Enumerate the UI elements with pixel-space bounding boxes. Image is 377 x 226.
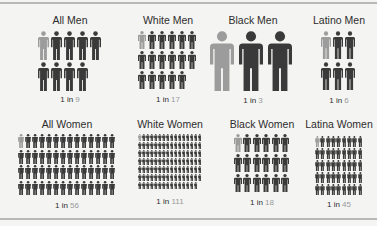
person-icon <box>194 182 198 189</box>
person-icon <box>32 134 38 148</box>
person-icon <box>253 174 261 192</box>
person-icon <box>60 165 66 179</box>
person-icon <box>81 165 87 179</box>
person-icon <box>345 62 355 90</box>
person-icon <box>243 154 251 172</box>
person-icon <box>18 150 24 164</box>
panel-title: White Men <box>128 14 208 26</box>
person-icon <box>74 181 80 195</box>
person-icon <box>18 181 24 195</box>
person-icon <box>188 31 196 49</box>
person-icon <box>336 172 341 183</box>
person-icon <box>138 71 146 89</box>
person-icon <box>326 172 331 183</box>
person-icon <box>102 181 108 195</box>
person-icon <box>342 136 347 147</box>
person-icon <box>320 148 325 159</box>
person-icon <box>358 148 363 159</box>
person-icon <box>168 31 176 49</box>
person-icon <box>198 150 202 157</box>
person-icon <box>331 184 336 195</box>
person-icon <box>178 31 186 49</box>
person-icon <box>46 150 52 164</box>
odds-label: 1 in 6 <box>306 96 372 105</box>
person-icon <box>333 31 343 59</box>
panel-title: Latina Women <box>302 118 376 130</box>
person-icon <box>138 51 146 69</box>
panel-title: All Men <box>20 14 120 26</box>
person-icon <box>53 134 59 148</box>
person-icon <box>336 148 341 159</box>
person-icon <box>39 165 45 179</box>
person-icon <box>239 31 263 91</box>
person-icon <box>253 134 261 152</box>
person-icon <box>148 51 156 69</box>
person-icon <box>74 134 80 148</box>
person-icon <box>25 165 31 179</box>
person-icon <box>51 31 62 60</box>
panel-latino-men: Latino Men 1 in 6 <box>306 14 372 105</box>
person-icon-grid <box>38 31 103 91</box>
person-icon <box>352 172 357 183</box>
person-icon <box>95 150 101 164</box>
person-icon-highlighted <box>138 31 146 49</box>
panel-all-men: All Men 1 in 9 <box>20 14 120 104</box>
person-icon <box>77 31 88 60</box>
person-icon <box>272 154 280 172</box>
bottom-divider <box>0 218 377 220</box>
person-icon <box>326 160 331 171</box>
person-icon <box>281 134 289 152</box>
person-icon <box>158 31 166 49</box>
person-icon-highlighted <box>315 136 320 147</box>
person-icon <box>188 51 196 69</box>
panel-title: White Women <box>130 118 210 130</box>
person-icon <box>168 71 176 89</box>
person-icon <box>46 134 52 148</box>
person-icon <box>198 174 202 181</box>
person-icon <box>331 160 336 171</box>
person-icon <box>60 150 66 164</box>
person-icon <box>352 136 357 147</box>
person-icon <box>342 184 347 195</box>
person-icon <box>198 158 202 165</box>
person-icon <box>234 154 242 172</box>
person-icon <box>198 142 202 149</box>
person-icon <box>25 134 31 148</box>
person-icon <box>320 136 325 147</box>
person-icon <box>109 181 115 195</box>
person-icon <box>352 160 357 171</box>
panel-title: Black Men <box>208 14 298 26</box>
person-icon <box>281 174 289 192</box>
person-icon <box>67 134 73 148</box>
panel-all-women: All Women 1 in 56 <box>14 118 120 210</box>
person-icon <box>198 134 202 141</box>
panel-black-men: Black Men 1 in 3 <box>208 14 298 105</box>
person-icon <box>102 165 108 179</box>
person-icon <box>74 150 80 164</box>
person-icon <box>272 134 280 152</box>
person-icon <box>74 165 80 179</box>
odds-label: 1 in 18 <box>224 198 300 207</box>
person-icon <box>345 31 355 59</box>
person-icon <box>320 172 325 183</box>
person-icon <box>320 160 325 171</box>
person-icon <box>347 172 352 183</box>
person-icon <box>53 181 59 195</box>
person-icon-highlighted <box>234 134 242 152</box>
person-icon-grid <box>210 31 297 91</box>
person-icon <box>102 134 108 148</box>
odds-label: 1 in 56 <box>14 201 120 210</box>
person-icon <box>178 71 186 89</box>
person-icon <box>95 165 101 179</box>
person-icon <box>243 134 251 152</box>
person-icon <box>32 181 38 195</box>
person-icon-highlighted <box>321 31 331 59</box>
person-icon <box>336 136 341 147</box>
person-icon <box>358 160 363 171</box>
person-icon <box>320 184 325 195</box>
panel-latina-women: Latina Women 1 in 45 <box>302 118 376 209</box>
person-icon <box>272 174 280 192</box>
person-icon <box>51 62 62 91</box>
person-icon <box>321 62 331 90</box>
panel-title: Latino Men <box>306 14 372 26</box>
